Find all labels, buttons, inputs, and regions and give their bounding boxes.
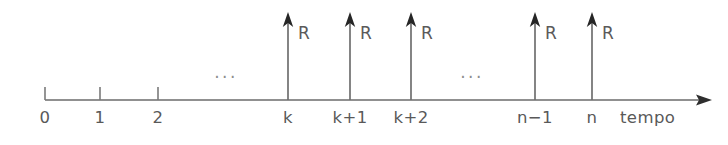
timeline-diagram: 012RkRk+1Rk+2Rn−1Rn ...... tempo [0, 0, 728, 145]
tick-label: 1 [95, 108, 106, 127]
tick-6: Rk+2 [393, 12, 433, 127]
tick-label: k+2 [393, 108, 428, 127]
cash-flow-label: R [298, 23, 310, 43]
tick-label: 0 [40, 108, 51, 127]
cash-flow-label: R [545, 23, 557, 43]
tick-7: Rn−1 [517, 12, 557, 127]
timeline-canvas: 012RkRk+1Rk+2Rn−1Rn ...... tempo [0, 0, 728, 145]
ellipsis-2: ... [460, 62, 484, 82]
tick-label: 2 [153, 108, 164, 127]
tick-label: n−1 [517, 108, 553, 127]
cash-flow-label: R [602, 23, 614, 43]
axis-caption-label: tempo [620, 108, 675, 127]
tick-5: Rk+1 [332, 12, 372, 127]
tick-group: 012RkRk+1Rk+2Rn−1Rn [40, 12, 615, 127]
tick-label: k [283, 108, 293, 127]
ellipsis-1: ... [214, 62, 238, 82]
time-axis [45, 95, 712, 106]
tick-4: Rk [283, 12, 310, 127]
tick-1: 0 [40, 87, 51, 127]
tick-8: Rn [587, 12, 615, 127]
tick-label: k+1 [332, 108, 367, 127]
cash-flow-label: R [360, 23, 372, 43]
ellipsis-group: ...... [214, 62, 484, 82]
tick-3: 2 [153, 87, 164, 127]
cash-flow-label: R [421, 23, 433, 43]
tick-2: 1 [95, 87, 106, 127]
tick-label: n [587, 108, 598, 127]
